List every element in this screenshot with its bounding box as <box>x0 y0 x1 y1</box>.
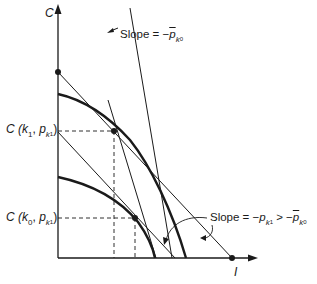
slope-relation: > − <box>273 211 293 223</box>
slope-p-subsub: 0 <box>180 36 183 42</box>
label-suffix: ) <box>53 122 57 136</box>
slope-bottom-leader-arrow-2-icon <box>200 235 206 241</box>
label-c-k1-pk1: C (k1, pk1) <box>6 123 57 135</box>
slope-bottom-leader-arrow-1-icon <box>163 237 169 245</box>
ppf-curve-k0 <box>58 177 155 258</box>
slope-top-leader-arrow-icon <box>107 28 114 33</box>
label-p-subsub: 1 <box>50 131 53 137</box>
slope-text: Slope = − <box>210 211 259 223</box>
label-k-sub: 1 <box>28 130 32 139</box>
label-p-subsub: 1 <box>50 219 53 225</box>
ppf-curve-k1 <box>58 94 186 258</box>
diagram-canvas <box>0 0 317 284</box>
label-slope-bottom: Slope = −pk1 > −pk0 <box>210 212 307 224</box>
slope-text: Slope = − <box>120 28 169 40</box>
steep-line-inner <box>108 100 156 258</box>
tangency-dot-k0 <box>132 215 138 221</box>
slope-p1-subsub: 1 <box>270 219 273 225</box>
slope-p: p <box>169 28 175 40</box>
c-axis-label: C <box>45 7 54 19</box>
c-intercept-dot <box>55 69 61 75</box>
label-k-sub: 0 <box>28 218 32 227</box>
label-prefix: C ( <box>6 122 22 136</box>
i-intercept-dot <box>229 255 235 261</box>
c-axis-arrow-icon <box>55 4 62 14</box>
slope-top-leader <box>113 28 118 30</box>
i-axis-label: I <box>234 266 237 278</box>
budget-line-bottom <box>58 132 175 258</box>
slope-p2-subsub: 0 <box>303 219 306 225</box>
label-slope-top: Slope = −pk0 <box>120 29 183 41</box>
label-p: p <box>39 122 46 136</box>
tangency-dot-k1 <box>111 128 117 134</box>
label-c-k0-pk1: C (k0, pk1) <box>6 211 57 223</box>
label-prefix: C ( <box>6 210 22 224</box>
label-suffix: ) <box>53 210 57 224</box>
slope-p1: p <box>259 211 265 223</box>
label-p: p <box>39 210 46 224</box>
i-axis-arrow-icon <box>248 255 258 262</box>
